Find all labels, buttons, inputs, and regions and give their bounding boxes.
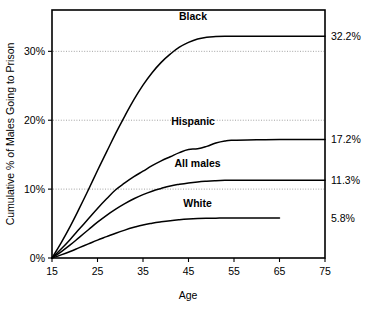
x-tick-label-35: 35	[137, 265, 149, 277]
x-tick-label-15: 15	[46, 265, 58, 277]
series-end-value-labels-group: 32.2%17.2%11.3%5.8%	[331, 30, 361, 224]
end-value-label-white: 5.8%	[331, 212, 355, 224]
x-tick-label-55: 55	[228, 265, 240, 277]
series-label-all-males: All males	[175, 157, 221, 169]
end-value-label-black: 32.2%	[331, 30, 361, 42]
y-axis-title: Cumulative % of Males Going to Prison	[4, 43, 16, 226]
y-tick-label-30: 30%	[24, 45, 45, 57]
series-curves-group	[52, 36, 325, 258]
y-tick-label-20: 20%	[24, 114, 45, 126]
series-curve-white	[52, 218, 280, 258]
series-curve-black	[52, 36, 325, 258]
x-tick-label-25: 25	[92, 265, 104, 277]
series-label-white: White	[183, 197, 212, 209]
series-label-black: Black	[179, 10, 207, 22]
series-label-hispanic: Hispanic	[171, 115, 215, 127]
plot-frame	[52, 10, 325, 258]
y-tick-label-0: 0%	[30, 252, 45, 264]
end-value-label-hispanic: 17.2%	[331, 133, 361, 145]
x-tick-label-45: 45	[183, 265, 195, 277]
x-tick-label-65: 65	[274, 265, 286, 277]
end-value-label-all-males: 11.3%	[331, 174, 360, 186]
y-tick-label-10: 10%	[24, 183, 45, 195]
chart-canvas: 0%10%20%30% 15253545556575 BlackHispanic…	[0, 0, 368, 309]
x-tick-label-75: 75	[319, 265, 331, 277]
x-axis-title: Age	[179, 289, 198, 301]
prison-cumulative-line-chart: 0%10%20%30% 15253545556575 BlackHispanic…	[0, 0, 368, 309]
x-tick-labels-group: 15253545556575	[46, 265, 331, 277]
y-tick-labels-group: 0%10%20%30%	[24, 45, 45, 264]
